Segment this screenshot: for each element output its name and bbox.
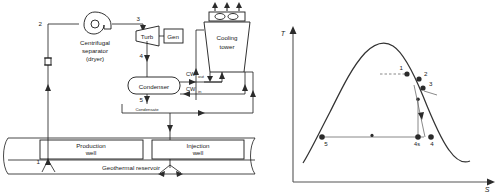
- production-well: Production well: [40, 140, 143, 159]
- state-point-4s-label: 4s: [414, 141, 420, 147]
- ts-axes: T S: [281, 26, 495, 193]
- flow-arrow-condensate-right: [198, 110, 205, 116]
- flow-arrow-riser: [45, 84, 51, 91]
- flow-arrow-cw-out: [189, 79, 196, 85]
- flow-arrow-tower-down: [250, 90, 256, 97]
- flow-arrow-cw-riser: [219, 72, 225, 79]
- state-point-2-schematic: 2: [39, 20, 43, 27]
- state-point-1-schematic: 1: [37, 158, 41, 165]
- flow-arrow-state5: [144, 96, 150, 103]
- centrifugal-separator: Centrifugal separator (dryer): [80, 12, 111, 62]
- separator-label-line2: separator: [82, 47, 108, 54]
- state-point-5-marker: [319, 134, 325, 140]
- condenser: Condenser: [128, 77, 180, 94]
- state-point-5-label: 5: [324, 140, 328, 147]
- state-point-3-marker: [420, 85, 425, 90]
- production-well-label-line1: Production: [76, 142, 106, 149]
- process-line-3-to-4: [414, 85, 425, 137]
- injection-well-label-line2: well: [192, 149, 204, 156]
- state-point-4-label: 4: [430, 140, 434, 147]
- separator-label-line3: (dryer): [86, 55, 104, 62]
- state-point-3-label: 3: [429, 80, 433, 87]
- separator-label-line1: Centrifugal: [80, 39, 110, 46]
- s-axis-label: S: [485, 186, 490, 193]
- state-point-2-marker: [416, 76, 421, 81]
- flow-arrow-state4: [144, 55, 150, 62]
- state-point-3-schematic: 3: [137, 15, 141, 22]
- state-point-4-marker: [428, 134, 434, 140]
- saturation-dome-curve: [303, 43, 470, 163]
- cooling-tower-label-line2: tower: [219, 43, 234, 50]
- cw-in-label: CW: [186, 86, 196, 92]
- flow-tick-5-4: [370, 134, 373, 137]
- cooling-tower: Cooling tower: [193, 2, 256, 113]
- reservoir-label: Geothermal reservoir: [102, 164, 160, 171]
- state-point-1-label: 1: [400, 64, 404, 71]
- injection-well: Injection well: [152, 140, 244, 159]
- cw-in-subscript: in: [198, 89, 202, 94]
- state-point-5-schematic: 5: [140, 96, 144, 103]
- turbine-exhaust-line: 4: [140, 41, 150, 77]
- flash-valve-icon: [44, 58, 52, 65]
- state-point-4s-marker: [415, 134, 421, 140]
- air-outlet-arrows: [212, 2, 242, 11]
- cooling-tower-label-line1: Cooling: [217, 34, 239, 41]
- turbine-label: Turb: [141, 33, 154, 40]
- injection-well-label-line1: Injection: [186, 142, 210, 149]
- t-axis-arrow: [290, 26, 297, 34]
- production-well-label-line2: well: [85, 149, 97, 156]
- t-axis-label: T: [281, 30, 286, 37]
- state-point-2-label: 2: [424, 70, 428, 77]
- figure-canvas: Geothermal reservoir Production well Inj…: [0, 0, 503, 194]
- state-point-1-marker: [404, 71, 409, 76]
- condensate-label: Condensate: [135, 107, 159, 112]
- ts-diagram: T S 1 2 3: [281, 26, 495, 193]
- figure-root: Geothermal reservoir Production well Inj…: [0, 0, 503, 194]
- generator-label: Gen: [167, 33, 179, 40]
- cw-out-subscript: out: [198, 74, 205, 79]
- condenser-label: Condenser: [139, 83, 169, 90]
- flow-arrow-cw-in-riser: [242, 84, 248, 91]
- plant-schematic: Geothermal reservoir Production well Inj…: [4, 2, 257, 177]
- state-point-4-schematic: 4: [140, 52, 144, 59]
- ts-state-points: 1 2 3 4s 4 5: [319, 64, 437, 147]
- flow-arrow-injection: [167, 125, 173, 132]
- s-axis-arrow: [487, 179, 495, 186]
- process-line-5-to-4: [322, 134, 424, 137]
